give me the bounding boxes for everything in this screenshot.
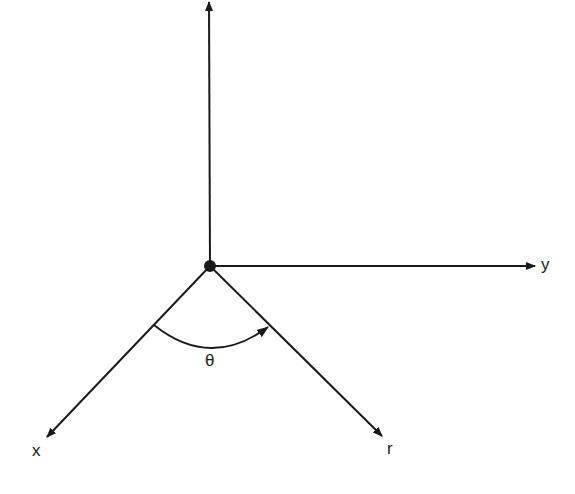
x-axis <box>47 266 210 437</box>
origin-point <box>204 260 216 272</box>
r-axis <box>210 266 382 436</box>
y-axis-label: y <box>541 256 550 273</box>
axes-diagram <box>0 0 575 494</box>
theta-arc <box>154 325 268 348</box>
vertical-axis <box>209 2 210 266</box>
x-axis-label: x <box>32 442 41 459</box>
r-axis-label: r <box>387 440 393 457</box>
diagram-canvas: y x r θ <box>0 0 575 494</box>
theta-label: θ <box>205 352 214 369</box>
